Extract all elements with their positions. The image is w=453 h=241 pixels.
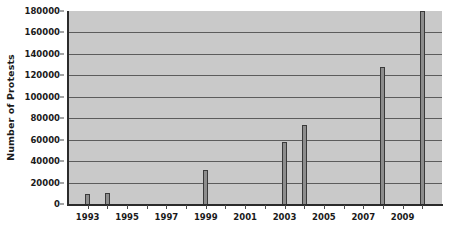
x-tick-mark (363, 205, 364, 209)
y-tick-label: 160000 (25, 27, 61, 37)
bar (420, 11, 425, 204)
y-tick-mark (60, 204, 64, 205)
y-tick-label: 180000 (25, 6, 61, 16)
x-tick-mark (324, 205, 325, 209)
y-axis-tick-labels: 0200004000060000800001000001200001400001… (18, 11, 64, 204)
x-axis-ticks: 199319951997199920012003200520072009 (68, 205, 442, 235)
protests-bar-chart: Number of Protests 020000400006000080000… (0, 0, 453, 241)
x-tick-label: 2003 (273, 212, 297, 222)
x-tick-label: 2009 (391, 212, 415, 222)
y-tick-mark (60, 11, 64, 12)
x-tick-label: 1997 (155, 212, 179, 222)
x-tick-label: 2007 (351, 212, 375, 222)
x-tick-label: 2001 (233, 212, 257, 222)
x-tick-mark (403, 205, 404, 209)
x-tick-mark (88, 205, 89, 209)
gridline (68, 140, 442, 141)
x-tick-mark (225, 205, 226, 209)
y-tick-label: 100000 (25, 92, 61, 102)
y-axis-title-text: Number of Protests (5, 54, 16, 161)
gridline (68, 54, 442, 55)
x-tick-mark (285, 205, 286, 209)
y-tick-label: 40000 (30, 156, 60, 166)
bar (302, 125, 307, 204)
gridline (68, 97, 442, 98)
x-tick-mark (206, 205, 207, 209)
x-tick-label: 2005 (312, 212, 336, 222)
gridline (68, 161, 442, 162)
y-tick-mark (60, 32, 64, 33)
y-tick-mark (60, 53, 64, 54)
plot-area (68, 11, 442, 204)
x-tick-mark (127, 205, 128, 209)
x-tick-mark (265, 205, 266, 209)
gridline (68, 118, 442, 119)
y-tick-label: 60000 (30, 135, 60, 145)
x-tick-label: 1993 (76, 212, 100, 222)
bar (105, 193, 110, 204)
bar (85, 194, 90, 204)
y-tick-mark (60, 182, 64, 183)
bar (203, 170, 208, 204)
x-tick-mark (383, 205, 384, 209)
x-tick-mark (245, 205, 246, 209)
bar (282, 142, 287, 204)
gridline (68, 75, 442, 76)
x-tick-label: 1999 (194, 212, 218, 222)
y-tick-mark (60, 96, 64, 97)
bar (380, 67, 385, 204)
x-tick-mark (147, 205, 148, 209)
y-tick-mark (60, 139, 64, 140)
y-tick-label: 80000 (30, 113, 60, 123)
x-tick-mark (107, 205, 108, 209)
x-tick-mark (186, 205, 187, 209)
gridline (68, 32, 442, 33)
x-tick-label: 1995 (115, 212, 139, 222)
y-tick-label: 120000 (25, 70, 61, 80)
gridline (68, 183, 442, 184)
x-tick-mark (422, 205, 423, 209)
y-tick-label: 20000 (30, 178, 60, 188)
x-tick-mark (166, 205, 167, 209)
x-tick-mark (304, 205, 305, 209)
y-tick-mark (60, 118, 64, 119)
y-axis-title: Number of Protests (0, 0, 20, 215)
y-axis-line (67, 11, 69, 205)
y-tick-mark (60, 161, 64, 162)
y-tick-mark (60, 75, 64, 76)
x-tick-mark (344, 205, 345, 209)
y-tick-label: 140000 (25, 49, 61, 59)
